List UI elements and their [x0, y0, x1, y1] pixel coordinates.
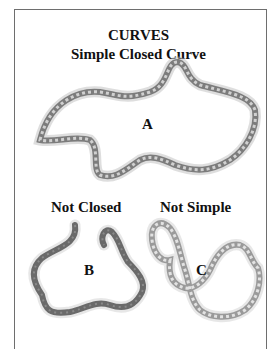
curve-a-label: A — [142, 116, 153, 133]
curve-c-label: C — [196, 262, 207, 279]
curve-b-label: B — [84, 262, 94, 279]
curve-b-caption: Not Closed — [51, 199, 121, 216]
curve-c-caption: Not Simple — [160, 199, 231, 216]
